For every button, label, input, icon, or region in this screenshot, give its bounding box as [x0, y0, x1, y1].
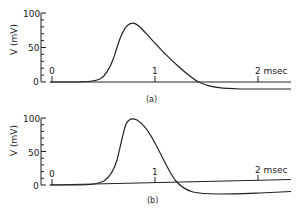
panel-label-b: (b): [147, 196, 158, 205]
panel-b: V (mV) 100 50 0 0 1 2 msec (b): [9, 114, 291, 205]
y-tick-label-0: 0: [33, 77, 39, 87]
y-axis-label: V (mV): [9, 24, 19, 55]
y-tick-label-0: 0: [33, 181, 39, 191]
x-tick-label-1: 1: [152, 167, 158, 177]
panel-label-a: (a): [146, 95, 157, 104]
x-axis-baseline: [50, 180, 291, 186]
x-tick-label-0: 0: [49, 66, 55, 76]
y-tick-label-50: 50: [28, 43, 40, 53]
x-tick-label-0: 0: [49, 169, 55, 179]
action-potential-figure: V (mV) 100 50 0 0 1 2 msec: [0, 0, 303, 211]
y-ticks: [41, 13, 46, 82]
x-tick-label-1: 1: [152, 66, 158, 76]
panel-a: V (mV) 100 50 0 0 1 2 msec: [9, 9, 291, 104]
x-tick-label-2: 2 msec: [255, 66, 288, 76]
y-ticks: [41, 118, 46, 185]
y-axis-label: V (mV): [9, 125, 19, 156]
y-tick-label-50: 50: [28, 148, 40, 158]
x-tick-label-2: 2 msec: [255, 165, 288, 175]
voltage-trace-a: [50, 23, 291, 89]
y-tick-label-100: 100: [23, 9, 40, 19]
y-tick-label-100: 100: [23, 114, 40, 124]
